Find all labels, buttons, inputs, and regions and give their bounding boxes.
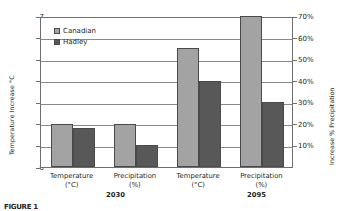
category-label-line1: Precipitation: [103, 172, 166, 181]
legend-swatch-canadian-icon: [54, 28, 60, 34]
y-tick-right-70%: 70%: [298, 13, 314, 21]
bar-canadian-4: [240, 16, 262, 167]
bar-chart: Temperature Increase °C Increase % Preci…: [0, 0, 340, 211]
y-tick-right-20%: 20%: [298, 121, 314, 129]
y-axis-right-title: Increase % Precipitation: [328, 87, 335, 165]
group-label-2030: 2030: [106, 191, 125, 199]
bar-hadley-4: [262, 102, 284, 167]
bar-group-2: [104, 18, 167, 167]
legend-label-canadian: Canadian: [63, 26, 96, 37]
bar-canadian-3: [177, 48, 199, 167]
category-label-line1: Temperature: [40, 172, 103, 181]
category-label-line2: (%): [103, 181, 166, 190]
y-tick-right-50%: 50%: [298, 56, 314, 64]
legend-item-hadley: Hadley: [54, 37, 96, 48]
category-label-line2: (°C): [167, 181, 230, 190]
bar-hadley-3: [199, 81, 221, 167]
bar-hadley-2: [136, 145, 158, 167]
group-label-2095: 2095: [247, 191, 266, 199]
x-category-3: Temperature(°C): [167, 172, 230, 190]
y-tick-right-10%: 10%: [298, 142, 314, 150]
x-category-2: Precipitation(%): [103, 172, 166, 190]
legend: Canadian Hadley: [54, 26, 96, 47]
bar-canadian-2: [114, 124, 136, 167]
category-label-line1: Precipitation: [230, 172, 293, 181]
category-label-line2: (°C): [40, 181, 103, 190]
legend-item-canadian: Canadian: [54, 26, 96, 37]
category-label-line2: (%): [230, 181, 293, 190]
figure-caption-stub: FIGURE 1: [4, 203, 38, 211]
y-tick-right-40%: 40%: [298, 78, 314, 86]
y-axis-left-title: Temperature Increase °C: [8, 75, 15, 155]
category-label-line1: Temperature: [167, 172, 230, 181]
y-tick-right-30%: 30%: [298, 99, 314, 107]
x-category-4: Precipitation(%): [230, 172, 293, 190]
x-category-1: Temperature(°C): [40, 172, 103, 190]
y-tick-right-60%: 60%: [298, 35, 314, 43]
legend-label-hadley: Hadley: [63, 37, 87, 48]
bar-canadian-1: [51, 124, 73, 167]
bar-group-4: [231, 18, 294, 167]
legend-swatch-hadley-icon: [54, 39, 60, 45]
bar-group-3: [168, 18, 231, 167]
bar-hadley-1: [73, 128, 95, 167]
